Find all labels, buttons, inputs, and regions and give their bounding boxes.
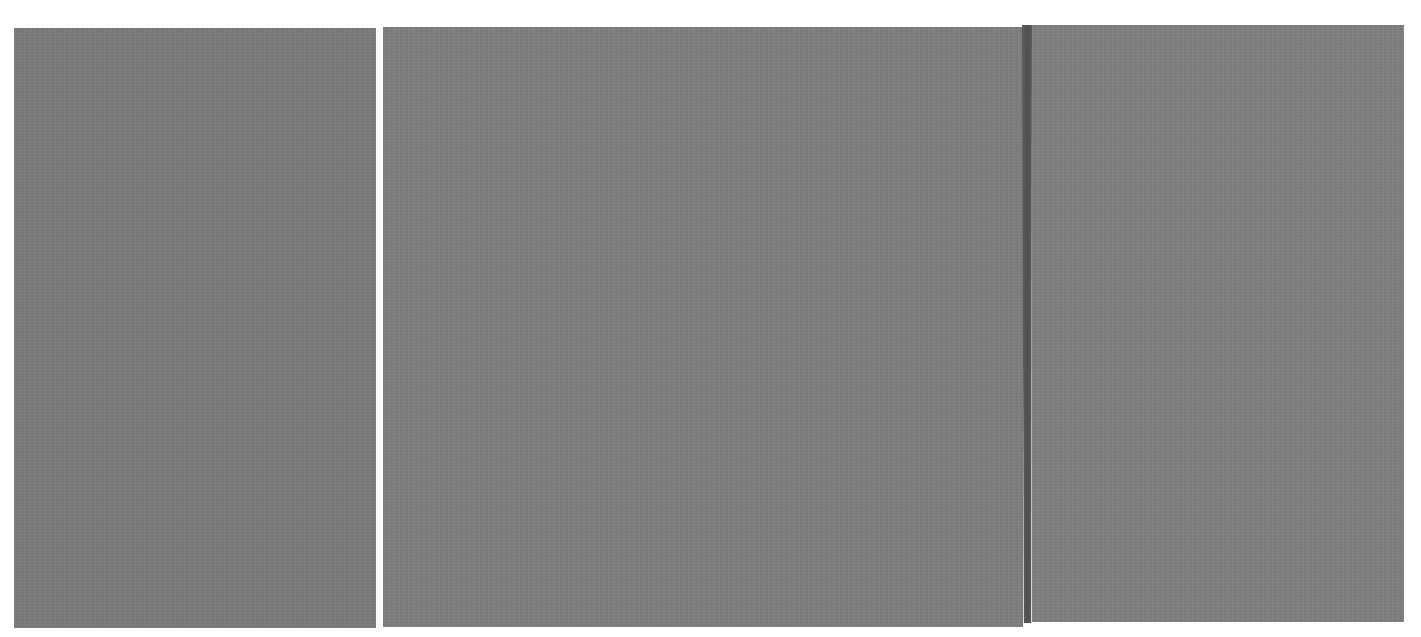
dark-vertical-stripe — [1022, 25, 1032, 623]
painting-canvas — [0, 0, 1421, 637]
middle-gray-field — [383, 27, 1023, 627]
white-vertical-stripe — [376, 27, 383, 628]
right-gray-field — [1032, 25, 1404, 622]
left-gray-field — [14, 28, 376, 628]
